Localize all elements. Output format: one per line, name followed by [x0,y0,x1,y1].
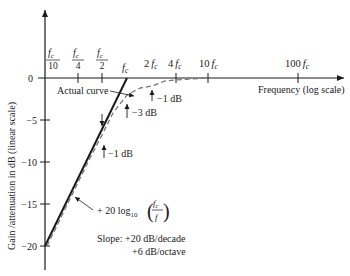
x-axis-label: Frequency (log scale) [258,84,345,96]
y-tick-minus5: −5 [26,115,37,126]
x-tick-fc-over-2: fc 2 [96,47,108,71]
actual-curve [47,78,208,246]
svg-text:+ 20 log10: + 20 log10 [97,205,138,219]
formula-label: + 20 log10 ( fc f ) [97,198,170,223]
minus1db-high-label: −1 dB [157,93,182,104]
svg-text:10: 10 [48,61,58,71]
x-tick-fc-over-4: fc 4 [72,47,84,71]
svg-text:f: f [155,212,159,222]
actual-curve-label: Actual curve [57,85,109,96]
formula-pointer [75,197,93,210]
x-tick-4fc: 4fc [168,58,182,71]
bode-diagram: 0 −5 −10 −15 −20 Gain /attenuation in dB… [0,0,350,276]
y-tick-minus10: −10 [21,157,37,168]
svg-text:fc: fc [48,47,55,60]
x-tick-2fc: 2fc [144,58,158,71]
slope-line-1: Slope: +20 dB/decade [97,233,186,244]
y-tick-minus15: −15 [21,199,37,210]
y-tick-minus20: −20 [21,241,37,252]
x-tick-100fc: 100fc [285,58,310,71]
svg-text:fc: fc [153,198,159,209]
y-tick-0: 0 [28,73,33,84]
svg-text:fc: fc [73,47,80,60]
minus3db-label: −3 dB [132,107,157,118]
svg-text:4: 4 [76,61,81,71]
svg-text:2: 2 [100,61,105,71]
svg-text:fc: fc [97,47,104,60]
y-axis-label: Gain /attenuation in dB (linear scale) [6,102,18,250]
actual-curve-pointer [110,91,134,96]
svg-text:): ) [163,200,170,223]
x-tick-fc-over-10: fc 10 [46,47,60,71]
x-tick-10fc: 10fc [199,58,218,71]
x-tick-fc: fc [122,62,129,75]
minus1db-low-label: −1 dB [108,148,133,159]
slope-line-2: +6 dB/octave [132,246,186,257]
asymptote-line [45,78,127,246]
